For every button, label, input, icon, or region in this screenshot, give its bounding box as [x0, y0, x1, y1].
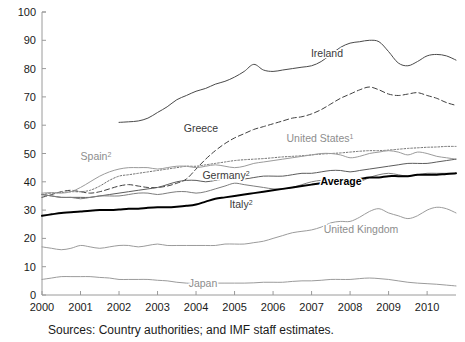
y-tick-label: 90 [24, 34, 36, 46]
series-label-average: Average [320, 175, 361, 187]
series-label-japan: Japan [189, 277, 218, 289]
y-tick-label: 50 [24, 148, 36, 160]
y-tick-label: 10 [24, 261, 36, 273]
y-tick-label: 70 [24, 91, 36, 103]
label-footnote-marker: 1 [350, 133, 354, 140]
label-footnote-marker: 2 [107, 151, 111, 158]
x-tick-label: 2007 [299, 301, 323, 313]
x-tick-label: 2010 [415, 301, 439, 313]
x-tick-label: 2001 [68, 301, 92, 313]
y-tick-label: 20 [24, 232, 36, 244]
series-line-greece [42, 87, 456, 197]
series-label-united-states: United States1 [287, 132, 354, 144]
y-tick-label: 80 [24, 63, 36, 75]
y-tick-label: 60 [24, 119, 36, 131]
label-footnote-marker: 2 [249, 199, 253, 206]
series-group [42, 40, 456, 286]
x-tick-label: 2002 [107, 301, 131, 313]
source-note: Sources: Country authorities; and IMF st… [48, 323, 334, 337]
x-tick-label: 2000 [30, 301, 54, 313]
series-label-spain: Spain2 [81, 150, 112, 162]
x-tick-label: 2009 [376, 301, 400, 313]
y-tick-label: 40 [24, 176, 36, 188]
line-chart-svg: 0102030405060708090100200020012002200320… [0, 0, 465, 342]
series-line-average [42, 173, 456, 215]
series-label-italy: Italy2 [229, 198, 252, 210]
series-label-united-kingdom: United Kingdom [324, 223, 399, 235]
series-line-japan [42, 277, 456, 286]
x-tick-label: 2004 [184, 301, 208, 313]
y-tick-label: 100 [18, 6, 36, 18]
x-tick-label: 2008 [338, 301, 362, 313]
series-label-germany: Germany2 [202, 169, 249, 181]
x-tick-label: 2005 [222, 301, 246, 313]
x-tick-label: 2003 [145, 301, 169, 313]
series-line-ireland [119, 40, 456, 122]
x-tick-label: 2006 [261, 301, 285, 313]
series-label-ireland: Ireland [311, 47, 343, 59]
y-tick-label: 0 [30, 289, 36, 301]
series-label-greece: Greece [184, 122, 219, 134]
chart-container: 0102030405060708090100200020012002200320… [0, 0, 465, 342]
y-tick-label: 30 [24, 204, 36, 216]
label-footnote-marker: 2 [246, 170, 250, 177]
